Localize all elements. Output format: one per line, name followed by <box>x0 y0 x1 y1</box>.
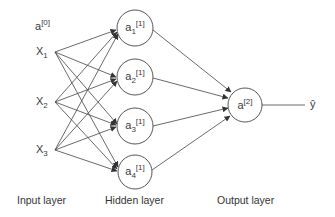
input-x3-label: X3 <box>36 144 48 155</box>
output-layer-label: Output layer <box>217 194 274 206</box>
hidden-a3-label: a3[1] <box>117 120 153 131</box>
hidden-layer-label: Hidden layer <box>105 194 164 206</box>
input-layer-label: Input layer <box>17 194 66 206</box>
hidden-a2-label: a2[1] <box>117 71 153 82</box>
input-x2-label: X2 <box>36 96 48 107</box>
input-to-hidden-edges <box>55 30 118 171</box>
hidden-a1-label: a1[1] <box>117 22 153 33</box>
bias-label: a[0] <box>35 21 50 32</box>
y-hat-label: ŷ <box>310 99 316 110</box>
hidden-a4-label: a4[1] <box>117 166 153 177</box>
network-diagram <box>0 0 335 217</box>
input-x1-label: X1 <box>36 46 48 57</box>
output-a2-label: a[2] <box>227 100 263 111</box>
